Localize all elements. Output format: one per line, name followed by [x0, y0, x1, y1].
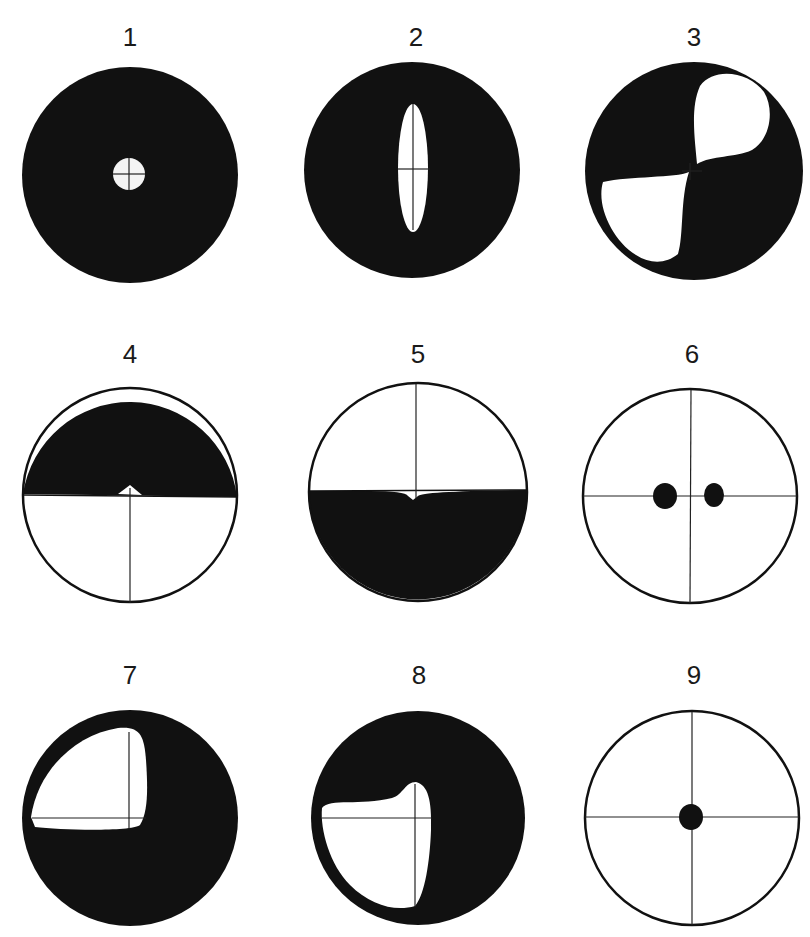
panel-2-figure: [304, 62, 520, 278]
panel-8-figure: [311, 711, 525, 925]
panel-3-figure: [585, 62, 803, 280]
panel-9-figure: [585, 711, 799, 925]
panel-6-figure: [583, 389, 797, 603]
interference-figures: [0, 0, 810, 937]
panel-5-figure: [309, 383, 527, 601]
panel-1-figure: [22, 67, 238, 283]
panel-7-figure: [22, 710, 238, 926]
dark-spot-left: [653, 483, 677, 509]
panel-4-figure: [23, 388, 237, 603]
dark-spot-right: [704, 483, 724, 507]
dark-spot-center: [679, 804, 703, 830]
